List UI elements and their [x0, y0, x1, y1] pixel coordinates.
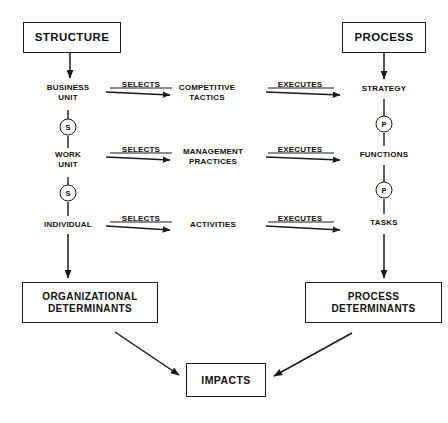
box-impacts[interactable]: IMPACTS	[186, 363, 266, 397]
node-functions: FUNCTIONS	[360, 150, 408, 160]
box-structure[interactable]: STRUCTURE	[23, 22, 121, 53]
circle-node-p-strategy-functions: P	[376, 116, 393, 133]
connector-competitive-tactics-executes-strategy	[266, 92, 340, 95]
box-organizational-determinants[interactable]: ORGANIZATIONAL DETERMINANTS	[22, 282, 158, 323]
connector-process-determinants-to-impacts	[274, 333, 352, 376]
edge-label-executes-2: EXECUTES	[278, 145, 323, 154]
connector-individual-selects-activities	[106, 226, 170, 230]
diagram-connectors	[0, 0, 448, 423]
node-activities: ACTIVITIES	[190, 220, 236, 230]
node-business-unit: BUSINESS UNIT	[47, 83, 90, 102]
circle-node-p-functions-tasks: P	[376, 182, 393, 199]
circle-node-s-work-individual: S	[60, 185, 77, 202]
connector-business-unit-selects-competitive-tactics	[106, 92, 170, 95]
box-process[interactable]: PROCESS	[342, 22, 426, 53]
edge-label-executes-3: EXECUTES	[278, 214, 323, 223]
connector-organizational-determinants-to-impacts	[115, 332, 179, 375]
connector-management-practices-executes-functions	[266, 157, 340, 160]
node-strategy: STRATEGY	[362, 84, 407, 94]
box-process-determinants[interactable]: PROCESS DETERMINANTS	[305, 282, 442, 323]
edge-label-selects-2: SELECTS	[122, 145, 160, 154]
node-competitive-tactics: COMPETITIVE TACTICS	[179, 83, 235, 102]
circle-node-s-business-work: S	[60, 119, 77, 136]
node-management-practices: MANAGEMENT PRACTICES	[183, 147, 243, 166]
edge-label-executes-1: EXECUTES	[278, 80, 323, 89]
node-work-unit: WORK UNIT	[55, 150, 81, 169]
node-tasks: TASKS	[370, 218, 398, 228]
edge-label-selects-1: SELECTS	[122, 80, 160, 89]
node-individual: INDIVIDUAL	[44, 220, 92, 230]
connector-work-unit-selects-management-practices	[106, 157, 170, 160]
edge-label-selects-3: SELECTS	[122, 214, 160, 223]
connector-activities-executes-tasks	[266, 226, 340, 230]
diagram-canvas: STRUCTURE PROCESS ORGANIZATIONAL DETERMI…	[0, 0, 448, 423]
